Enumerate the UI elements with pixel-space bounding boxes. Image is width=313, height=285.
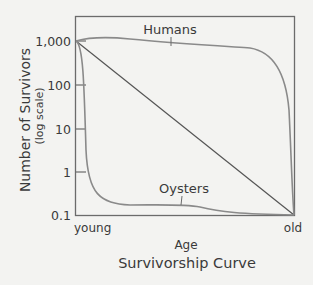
y-tick-label-100: 100 xyxy=(47,78,71,93)
oysters-leader xyxy=(181,196,182,205)
y-tick-label-0-1: 0.1 xyxy=(51,208,71,223)
x-tick-label-old: old xyxy=(284,221,302,235)
chart-title: Survivorship Curve xyxy=(118,255,256,271)
y-tick-label-1: 1 xyxy=(63,165,71,180)
survivorship-chart: 1,000 100 10 1 0.1 Number of Survivors (… xyxy=(0,0,313,285)
y-tick-label-10: 10 xyxy=(55,122,71,137)
y-axis-sublabel: (log scale) xyxy=(33,87,46,144)
humans-label: Humans xyxy=(143,22,197,37)
x-axis-label: Age xyxy=(174,238,197,252)
oysters-label: Oysters xyxy=(159,181,209,196)
x-tick-label-young: young xyxy=(74,221,111,235)
y-tick-label-1000: 1,000 xyxy=(35,34,71,49)
y-axis-label: Number of Survivors xyxy=(17,48,33,192)
